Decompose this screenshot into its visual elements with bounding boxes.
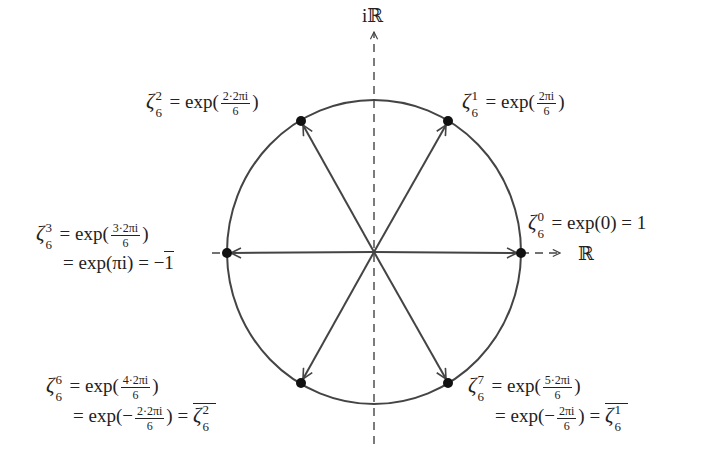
point-zeta6: [296, 378, 306, 388]
zeta-symbol: ζ: [146, 89, 155, 113]
point-zeta1: [443, 116, 453, 126]
label-zeta7: ζ76= exp(5·2πi6) = exp(−2πi6) = ζ16: [468, 374, 628, 432]
label-zeta6: ζ66= exp(4·2πi6) = exp(−2·2πi6) = ζ26: [46, 374, 216, 432]
label-zeta2: ζ26= exp(2·2πi6): [146, 90, 258, 117]
imaginary-axis-label: iℝ: [362, 6, 383, 26]
vector-zeta7: [374, 252, 446, 379]
label-zeta0: ζ06= exp(0) = 1: [528, 212, 646, 238]
vector-zeta6: [303, 252, 374, 379]
point-zeta3: [222, 248, 232, 258]
label-zeta1: ζ16= exp(2πi6): [462, 90, 564, 117]
vector-zeta0: [374, 252, 517, 253]
real-axis-label: ℝ: [578, 244, 594, 264]
point-zeta7: [443, 378, 453, 388]
point-zeta0: [516, 248, 526, 258]
point-zeta2: [296, 116, 306, 126]
label-zeta3: ζ36= exp(3·2πi6) = exp(πi) = −1: [36, 222, 174, 273]
vector-zeta3: [231, 252, 374, 253]
vector-zeta2: [303, 125, 374, 252]
vector-zeta1: [374, 125, 446, 252]
